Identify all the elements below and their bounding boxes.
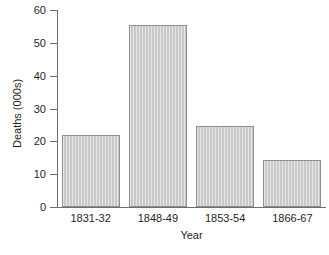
y-axis-tick-label: 10 bbox=[34, 169, 46, 180]
y-axis-tick bbox=[50, 10, 57, 11]
y-axis-tick-label: 20 bbox=[34, 136, 46, 147]
y-axis-tick bbox=[50, 141, 57, 142]
x-axis-tick-label: 1866-67 bbox=[259, 212, 326, 224]
bar-chart-figure: 0102030405060 Deaths (000s) 1831-321848-… bbox=[0, 0, 329, 255]
y-axis-tick-label: 30 bbox=[34, 104, 46, 115]
x-axis-line bbox=[57, 207, 326, 208]
y-axis-tick bbox=[50, 76, 57, 77]
figure-caption-fragment bbox=[0, 247, 329, 255]
y-axis-tick bbox=[50, 109, 57, 110]
x-axis-tick-label: 1848-49 bbox=[124, 212, 191, 224]
y-axis-tick-label: 50 bbox=[34, 38, 46, 49]
y-axis-tick bbox=[50, 174, 57, 175]
y-axis-title: Deaths (000s) bbox=[12, 64, 23, 164]
x-axis-tick-label: 1853-54 bbox=[192, 212, 259, 224]
y-axis-tick-label: 40 bbox=[34, 71, 46, 82]
x-axis-tick-label: 1831-32 bbox=[57, 212, 124, 224]
bar bbox=[196, 126, 254, 207]
bar bbox=[129, 25, 187, 207]
bar bbox=[62, 135, 120, 207]
y-axis-tick bbox=[50, 207, 57, 208]
y-axis-tick bbox=[50, 43, 57, 44]
plot-area bbox=[57, 10, 326, 207]
x-axis-title: Year bbox=[57, 229, 326, 241]
y-axis-tick-label: 60 bbox=[34, 5, 46, 16]
y-axis-tick-label: 0 bbox=[40, 202, 46, 213]
bar bbox=[263, 160, 321, 207]
